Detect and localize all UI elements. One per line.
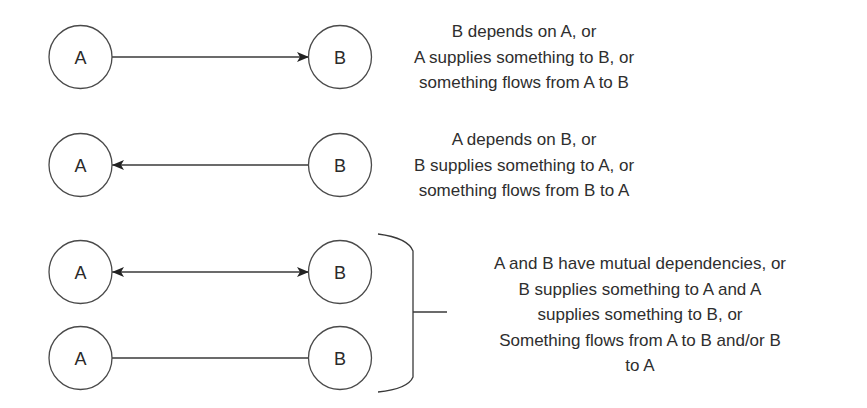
row-3-mutual: A B xyxy=(49,241,372,304)
bracket-curve xyxy=(378,234,413,392)
description-grouped: A and B have mutual dependencies, or B s… xyxy=(454,251,826,379)
description-line: A depends on B, or xyxy=(374,127,674,153)
node-a-label: A xyxy=(74,349,86,369)
description-line: Something flows from A to B and/or B xyxy=(454,328,826,354)
row-1-a-to-b: A B xyxy=(49,26,372,89)
description-line: B depends on A, or xyxy=(374,19,674,45)
node-b-label: B xyxy=(334,156,346,176)
row-2-b-to-a: A B xyxy=(49,134,372,197)
row-4-plain: A B xyxy=(49,327,372,390)
node-b-label: B xyxy=(334,263,346,283)
node-a-label: A xyxy=(74,263,86,283)
description-line: supplies something to B, or xyxy=(454,302,826,328)
description-row-1: B depends on A, or A supplies something … xyxy=(374,19,674,96)
node-a-label: A xyxy=(74,156,86,176)
description-line: A supplies something to B, or xyxy=(374,45,674,71)
description-line: something flows from A to B xyxy=(374,70,674,96)
node-b-label: B xyxy=(334,48,346,68)
description-line: B supplies something to A and A xyxy=(454,277,826,303)
node-b-label: B xyxy=(334,349,346,369)
node-a-label: A xyxy=(74,48,86,68)
group-bracket xyxy=(378,234,447,392)
description-line: B supplies something to A, or xyxy=(374,153,674,179)
description-row-2: A depends on B, or B supplies something … xyxy=(374,127,674,204)
description-line: something flows from B to A xyxy=(374,178,674,204)
description-line: A and B have mutual dependencies, or xyxy=(454,251,826,277)
description-line: to A xyxy=(454,353,826,379)
